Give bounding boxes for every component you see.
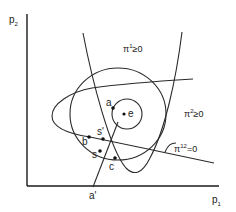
label-e: e bbox=[128, 108, 134, 119]
x-axis-label: p1 bbox=[212, 194, 222, 207]
label-s-prime: s' bbox=[97, 126, 104, 137]
point-e bbox=[122, 112, 125, 115]
point-c bbox=[113, 156, 117, 160]
point-s bbox=[98, 149, 102, 153]
point-a bbox=[111, 106, 115, 110]
label-s: s bbox=[92, 149, 97, 160]
label-a: a bbox=[106, 97, 112, 108]
economics-diagram: p2 p1 a e s' b s c a' π1≥0 π2≥0 π12=0 bbox=[0, 0, 236, 212]
label-pi1-nonneg: π1≥0 bbox=[123, 43, 143, 54]
diagram-canvas: p2 p1 a e s' b s c a' π1≥0 π2≥0 π12=0 bbox=[0, 0, 236, 212]
label-b: b bbox=[82, 136, 88, 147]
label-pi12-zero: π12=0 bbox=[174, 143, 197, 154]
point-b bbox=[87, 135, 91, 139]
y-axis-label: p2 bbox=[9, 14, 19, 27]
label-c: c bbox=[109, 161, 114, 172]
label-pi2-nonneg: π2≥0 bbox=[184, 108, 204, 119]
point-s-prime bbox=[101, 137, 105, 141]
label-a-prime: a' bbox=[89, 190, 97, 201]
